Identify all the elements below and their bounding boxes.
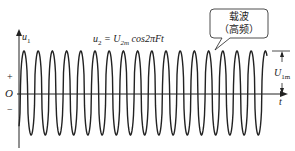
x-axis-label: t (279, 96, 282, 107)
callout-line2: （高频） (210, 23, 268, 36)
carrier-waveform (19, 51, 267, 135)
amplitude-arrow-up-icon (280, 51, 284, 57)
amplitude-label: U1m (274, 67, 290, 81)
callout-text: 载波 （高频） (210, 10, 268, 36)
minus-label: − (7, 104, 13, 115)
y-axis-label: tu1 (22, 31, 31, 45)
callout-line1: 载波 (210, 10, 268, 23)
origin-label: O (5, 87, 13, 99)
formula-label: u2 = U2m cos2πFt (93, 33, 164, 47)
plus-label: + (7, 71, 13, 82)
